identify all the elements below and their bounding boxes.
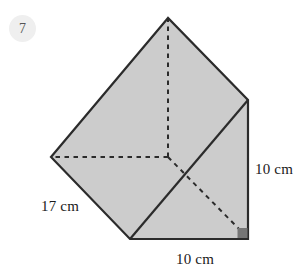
right-angle-marker — [238, 228, 248, 238]
geometry-figure-panel: 7 10 cm 10 cm 17 cm — [0, 0, 303, 275]
pyramid-diagram — [0, 0, 303, 275]
pyramid-body-fill — [51, 18, 248, 239]
dimension-label-base-width: 10 cm — [176, 252, 214, 267]
dimension-label-slant-height: 17 cm — [41, 199, 79, 214]
dimension-label-vertical-height: 10 cm — [255, 162, 293, 177]
